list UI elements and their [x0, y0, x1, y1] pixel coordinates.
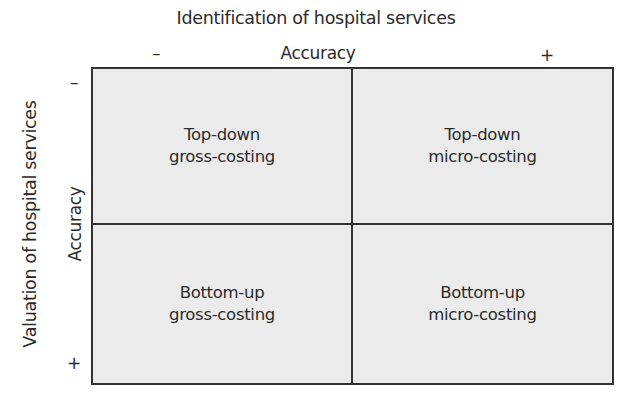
- quadrant-line1: Top-down: [428, 124, 536, 146]
- top-axis: – Accuracy +: [92, 43, 614, 67]
- left-axis-high-marker: +: [67, 353, 81, 373]
- quadrant-line1: Bottom-up: [428, 282, 536, 304]
- top-axis-title: Identification of hospital services: [0, 8, 632, 28]
- top-axis-high-marker: +: [540, 45, 554, 65]
- top-axis-label: Accuracy: [57, 43, 579, 63]
- quadrant-line1: Top-down: [169, 124, 275, 146]
- quadrant-line2: micro-costing: [428, 146, 536, 168]
- quadrant-bottom-up-gross-costing: Bottom-up gross-costing: [93, 225, 353, 383]
- quadrant-line2: micro-costing: [428, 304, 536, 326]
- costing-matrix: Top-down gross-costing Top-down micro-co…: [91, 67, 614, 385]
- quadrant-top-down-micro-costing: Top-down micro-costing: [353, 69, 612, 225]
- quadrant-line1: Bottom-up: [169, 282, 275, 304]
- left-axis-title: Valuation of hospital services: [20, 64, 40, 384]
- quadrant-top-down-gross-costing: Top-down gross-costing: [93, 69, 353, 225]
- quadrant-line2: gross-costing: [169, 304, 275, 326]
- quadrant-line2: gross-costing: [169, 146, 275, 168]
- left-axis-label: Accuracy: [65, 164, 85, 284]
- quadrant-bottom-up-micro-costing: Bottom-up micro-costing: [353, 225, 612, 383]
- left-axis-low-marker: –: [70, 72, 79, 92]
